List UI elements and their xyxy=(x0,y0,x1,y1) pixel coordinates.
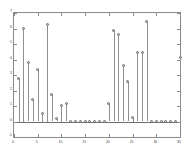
data-point-marker xyxy=(27,61,30,64)
data-point-marker xyxy=(112,29,115,32)
x-tick-label: 15 xyxy=(78,141,90,144)
data-point-marker xyxy=(17,77,20,80)
stem-line xyxy=(142,53,143,121)
stem-line xyxy=(52,95,53,121)
x-tick xyxy=(109,134,110,137)
x-tick-top xyxy=(38,13,39,16)
y-tick-right xyxy=(177,91,180,92)
x-tick xyxy=(180,134,181,137)
data-series-layer xyxy=(14,13,180,137)
stem-line xyxy=(23,29,24,122)
y-tick xyxy=(14,44,17,45)
stem-line xyxy=(128,82,129,122)
data-point-marker xyxy=(141,51,144,54)
data-point-marker xyxy=(36,68,39,71)
x-tick-top xyxy=(14,13,15,16)
y-tick-label: 5 xyxy=(1,41,12,44)
stem-line xyxy=(61,106,62,122)
data-point-marker xyxy=(46,23,49,26)
data-point-marker xyxy=(122,64,125,67)
y-tick-right xyxy=(177,29,180,30)
x-tick-label: 35 xyxy=(173,141,185,144)
y-tick-label: 4 xyxy=(1,57,12,60)
x-tick-top xyxy=(180,13,181,16)
x-tick-label: 10 xyxy=(54,141,66,144)
data-point-marker xyxy=(179,56,182,59)
y-tick-label: 7 xyxy=(1,10,12,13)
x-tick-top xyxy=(133,13,134,16)
x-tick-top xyxy=(61,13,62,16)
y-tick-right xyxy=(177,137,180,138)
x-tick-label: 25 xyxy=(126,141,138,144)
y-tick xyxy=(14,29,17,30)
x-tick-label: 0 xyxy=(7,141,19,144)
x-tick xyxy=(85,134,86,137)
y-tick xyxy=(14,122,17,123)
x-tick-label: 30 xyxy=(149,141,161,144)
y-tick-label: 0 xyxy=(1,119,12,122)
y-tick xyxy=(14,75,17,76)
x-tick-top xyxy=(156,13,157,16)
plot-area xyxy=(13,12,181,138)
data-point-marker xyxy=(60,104,63,107)
y-tick-label: 6 xyxy=(1,26,12,29)
y-tick xyxy=(14,91,17,92)
data-point-marker xyxy=(55,117,58,120)
data-point-marker xyxy=(50,93,53,96)
y-tick-right xyxy=(177,44,180,45)
stem-line xyxy=(118,35,119,122)
y-tick-label: 3 xyxy=(1,72,12,75)
x-tick xyxy=(14,134,15,137)
x-tick-top xyxy=(85,13,86,16)
stem-line xyxy=(19,79,20,122)
stem-line xyxy=(123,66,124,122)
y-tick xyxy=(14,137,17,138)
x-tick xyxy=(61,134,62,137)
y-tick-right xyxy=(177,106,180,107)
x-tick xyxy=(38,134,39,137)
stem-line xyxy=(180,58,181,122)
stem-line xyxy=(137,53,138,121)
x-tick-label: 20 xyxy=(102,141,114,144)
data-point-marker xyxy=(65,102,68,105)
y-tick xyxy=(14,106,17,107)
y-tick-label: -1 xyxy=(1,134,12,137)
data-point-marker xyxy=(41,112,44,115)
x-tick xyxy=(156,134,157,137)
stem-line xyxy=(38,70,39,121)
stem-line xyxy=(114,31,115,122)
data-point-marker xyxy=(22,27,25,30)
data-point-marker xyxy=(31,98,34,101)
stem-line xyxy=(33,100,34,122)
y-tick-right xyxy=(177,75,180,76)
stem-line xyxy=(28,63,29,122)
stem-line xyxy=(47,25,48,122)
y-tick-right xyxy=(177,60,180,61)
x-tick-label: 5 xyxy=(31,141,43,144)
stem-line xyxy=(66,104,67,121)
data-point-marker xyxy=(126,80,129,83)
y-tick-right xyxy=(177,122,180,123)
data-point-marker xyxy=(131,116,134,119)
x-tick-top xyxy=(109,13,110,16)
stem-plot-figure: -101234567 05101520253035 xyxy=(0,0,195,162)
data-point-marker xyxy=(136,51,139,54)
stem-line xyxy=(42,114,43,122)
data-point-marker xyxy=(145,20,148,23)
y-tick xyxy=(14,60,17,61)
x-tick xyxy=(133,134,134,137)
data-point-marker xyxy=(107,102,110,105)
y-tick-label: 1 xyxy=(1,103,12,106)
y-tick-label: 2 xyxy=(1,88,12,91)
stem-line xyxy=(109,104,110,122)
zero-baseline xyxy=(14,122,180,123)
data-point-marker xyxy=(117,33,120,36)
stem-line xyxy=(147,22,148,122)
